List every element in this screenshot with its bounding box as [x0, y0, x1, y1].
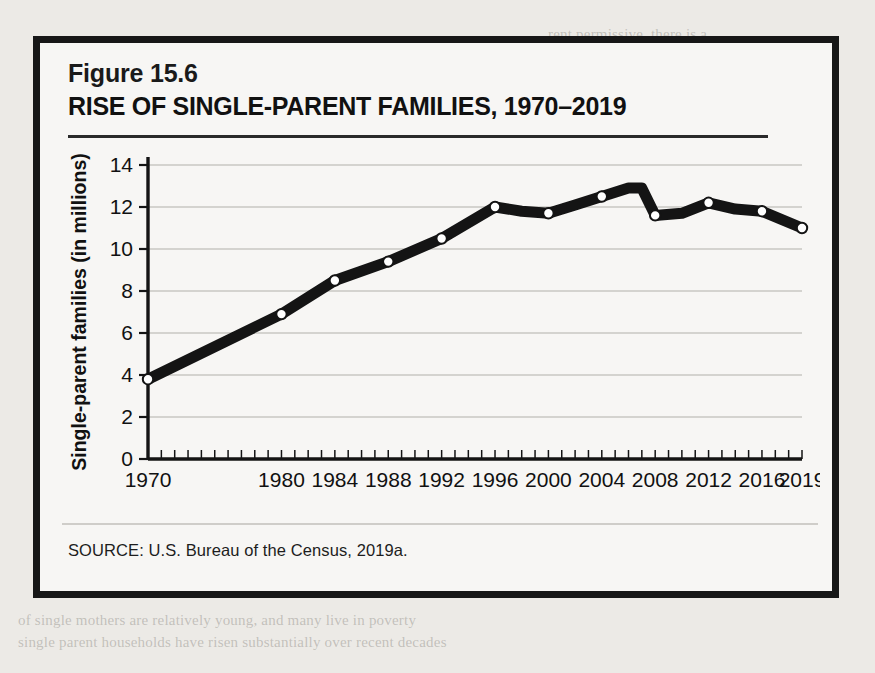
x-tick-label: 1996	[472, 468, 519, 491]
data-point-marker	[490, 202, 500, 212]
x-tick-label: 2004	[578, 468, 625, 491]
data-point-marker	[650, 210, 660, 220]
x-tick-label: 1988	[365, 468, 412, 491]
y-tick-label: 12	[110, 195, 133, 218]
y-tick-label: 0	[121, 447, 133, 470]
x-tick-label: 1980	[258, 468, 305, 491]
data-point-marker	[703, 198, 713, 208]
bleed-line: single parent households have risen subs…	[18, 634, 447, 651]
data-point-marker	[383, 256, 393, 266]
title-divider	[68, 135, 768, 138]
bleed-line: of single mothers are relatively young, …	[18, 612, 416, 629]
x-tick-label: 2000	[525, 468, 572, 491]
data-point-marker	[597, 191, 607, 201]
data-point-marker	[757, 206, 767, 216]
x-tick-label: 2012	[685, 468, 732, 491]
source-divider	[62, 523, 818, 525]
x-tick-label: 1984	[311, 468, 358, 491]
y-tick-label: 8	[121, 279, 133, 302]
chart-area: 02468101214Single-parent families (in mi…	[64, 151, 820, 511]
x-tick-label: 1992	[418, 468, 465, 491]
data-point-marker	[143, 374, 153, 384]
y-tick-label: 6	[121, 321, 133, 344]
data-point-marker	[436, 233, 446, 243]
source-note: SOURCE: U.S. Bureau of the Census, 2019a…	[68, 541, 408, 560]
y-tick-label: 4	[121, 363, 133, 386]
figure-title: RISE OF SINGLE-PARENT FAMILIES, 1970–201…	[68, 92, 626, 121]
data-line	[148, 188, 802, 379]
data-point-marker	[797, 223, 807, 233]
data-point-marker	[276, 309, 286, 319]
x-tick-label: 2008	[632, 468, 679, 491]
figure-number: Figure 15.6	[68, 59, 198, 88]
x-tick-label: 2019	[779, 468, 820, 491]
y-axis-title: Single-parent families (in millions)	[68, 153, 90, 470]
figure-frame: Figure 15.6 RISE OF SINGLE-PARENT FAMILI…	[33, 36, 839, 598]
y-tick-label: 14	[110, 153, 134, 176]
x-tick-label: 1970	[125, 468, 172, 491]
line-chart: 02468101214Single-parent families (in mi…	[64, 151, 820, 511]
data-point-marker	[543, 208, 553, 218]
y-tick-label: 10	[110, 237, 133, 260]
y-tick-label: 2	[121, 405, 133, 428]
data-point-marker	[330, 275, 340, 285]
